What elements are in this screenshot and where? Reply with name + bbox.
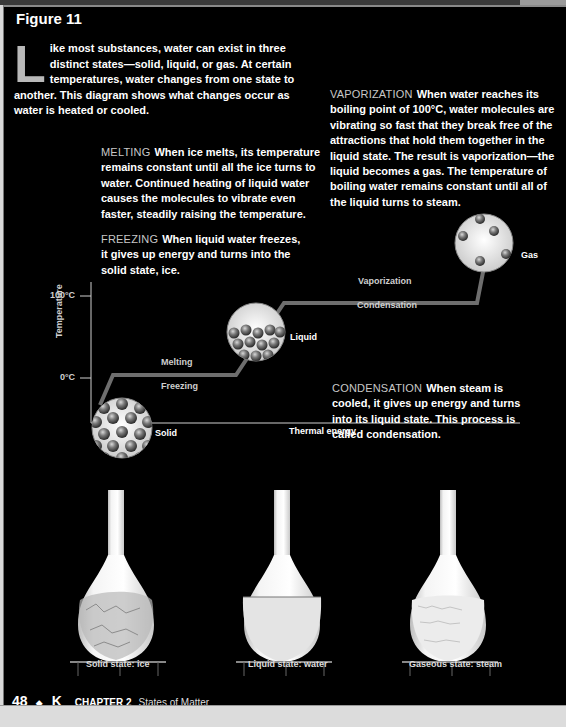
vaporization-heading: VAPORIZATION xyxy=(330,88,413,100)
gas-label: Gas xyxy=(521,250,538,260)
x-axis-label: Thermal energy xyxy=(289,426,356,436)
dropcap-letter: L xyxy=(14,42,46,86)
melting-callout: MELTINGWhen ice melts, its temperature r… xyxy=(101,145,326,222)
photo-caption-ice: Solid state: ice xyxy=(86,659,150,669)
flask-water-image xyxy=(236,490,332,676)
freezing-label: Freezing xyxy=(161,381,198,391)
intro-text: ike most substances, water can exist in … xyxy=(14,42,294,116)
intro-paragraph: Like most substances, water can exist in… xyxy=(14,41,314,119)
liquid-molecules-icon xyxy=(227,303,286,362)
photo-caption-water: Liquid state: water xyxy=(248,659,328,669)
melting-heading: MELTING xyxy=(101,146,150,158)
solid-molecules-icon xyxy=(90,398,154,464)
vaporization-callout: VAPORIZATIONWhen water reaches its boili… xyxy=(330,87,556,210)
flask-steam-image xyxy=(402,490,498,676)
condensation-label: Condensation xyxy=(357,300,417,310)
flask-ice-image xyxy=(70,490,166,676)
condensation-callout: CONDENSATIONWhen steam is cooled, it giv… xyxy=(332,381,542,443)
freezing-callout: FREEZINGWhen liquid water freezes, it gi… xyxy=(101,232,301,278)
photo-caption-steam: Gaseous state: steam xyxy=(409,659,502,669)
condensation-heading: CONDENSATION xyxy=(332,382,422,394)
gas-molecules-icon xyxy=(455,214,513,272)
figure-title: Figure 11 xyxy=(16,10,82,27)
vaporization-label: Vaporization xyxy=(358,276,412,286)
vaporization-text: When water reaches its boiling point of … xyxy=(330,88,554,208)
y-tick-0c: 0°C xyxy=(60,372,75,382)
liquid-label: Liquid xyxy=(290,332,317,342)
solid-label: Solid xyxy=(155,428,177,438)
y-axis-label: Temperature xyxy=(54,284,64,338)
freezing-heading: FREEZING xyxy=(101,233,158,245)
bottom-edge xyxy=(0,705,566,727)
melting-label: Melting xyxy=(161,357,193,367)
